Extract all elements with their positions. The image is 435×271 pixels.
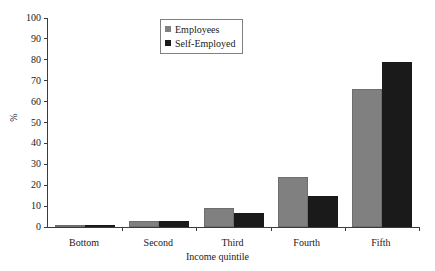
legend-label-self-employed: Self-Employed xyxy=(175,38,236,49)
bar-self-employed-fifth xyxy=(382,62,412,227)
legend-swatch-icon-self-employed xyxy=(165,40,171,46)
y-axis-tick-label: 70 xyxy=(31,76,44,86)
y-axis-tick-label: 90 xyxy=(31,34,44,44)
y-axis-tick: 70 xyxy=(31,76,48,86)
x-axis-tick-label: Fifth xyxy=(371,237,390,248)
bar-self-employed-third xyxy=(234,213,264,227)
x-axis-tick-mark xyxy=(419,227,420,231)
y-axis-tick-label: 80 xyxy=(31,55,44,65)
y-axis-tick: 10 xyxy=(31,201,48,211)
x-axis-tick-label: Second xyxy=(144,237,173,248)
x-axis-tick-label: Fourth xyxy=(293,237,320,248)
bar-chart: % 0102030405060708090100 BottomSecondThi… xyxy=(0,0,435,271)
x-axis-tick-label: Bottom xyxy=(69,237,99,248)
bar-group xyxy=(345,18,419,227)
legend-label-employees: Employees xyxy=(175,24,219,35)
y-axis-title: % xyxy=(8,109,19,127)
y-axis-tick-label: 50 xyxy=(31,118,44,128)
bar-self-employed-second xyxy=(159,221,189,227)
y-axis-tick-label: 60 xyxy=(31,97,44,107)
x-axis-tick-mark xyxy=(196,227,197,231)
y-axis-tick: 60 xyxy=(31,97,48,107)
x-axis-tick-label: Third xyxy=(221,237,243,248)
bar-self-employed-fourth xyxy=(308,196,338,227)
y-axis-tick: 90 xyxy=(31,34,48,44)
bar-self-employed-bottom xyxy=(85,225,115,227)
bar-employees-fourth xyxy=(278,177,308,227)
bar-group xyxy=(48,18,122,227)
y-axis-tick: 0 xyxy=(36,222,48,232)
y-axis-tick-label: 100 xyxy=(26,13,44,23)
bar-employees-bottom xyxy=(55,225,85,227)
legend: Employees Self-Employed xyxy=(160,19,243,54)
legend-item-employees: Employees xyxy=(165,22,236,36)
y-axis-tick-label: 10 xyxy=(31,201,44,211)
x-axis-title: Income quintile xyxy=(0,251,435,262)
y-axis-tick-label: 30 xyxy=(31,159,44,169)
bar-employees-second xyxy=(129,221,159,227)
bar-group xyxy=(271,18,345,227)
bar-employees-third xyxy=(204,208,234,227)
x-axis-tick-mark xyxy=(122,227,123,231)
legend-item-self-employed: Self-Employed xyxy=(165,36,236,50)
y-axis-tick-label: 40 xyxy=(31,138,44,148)
y-axis-tick: 20 xyxy=(31,180,48,190)
x-axis-tick-mark xyxy=(271,227,272,231)
y-axis-tick: 50 xyxy=(31,118,48,128)
x-axis-tick-mark xyxy=(345,227,346,231)
legend-swatch-icon-employees xyxy=(165,26,171,32)
y-axis-tick-label: 20 xyxy=(31,180,44,190)
bar-employees-fifth xyxy=(352,89,382,227)
y-axis-tick-label: 0 xyxy=(36,222,44,232)
y-axis-tick: 40 xyxy=(31,138,48,148)
y-axis-tick: 30 xyxy=(31,159,48,169)
y-axis-tick: 100 xyxy=(26,13,48,23)
y-axis-tick: 80 xyxy=(31,55,48,65)
